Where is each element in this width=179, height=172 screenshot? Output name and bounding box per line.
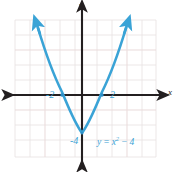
- equation-exponent: 2: [116, 135, 119, 142]
- root-pos2-point: [100, 93, 103, 96]
- equation-equals: =: [103, 137, 109, 147]
- root-neg2-point: [60, 93, 63, 96]
- axes: [8, 6, 163, 166]
- y-axis-label: y: [79, 1, 83, 10]
- tick-label-x-pos-2: 2: [110, 90, 115, 100]
- equation-lhs: y: [97, 137, 101, 147]
- grid-lines: [15, 20, 156, 157]
- equation-minus: −: [121, 137, 127, 147]
- coordinate-plane: [0, 0, 179, 172]
- equation-constant: 4: [130, 137, 135, 147]
- equation-annotation: y=x2−4: [97, 136, 134, 148]
- tick-label-y-neg-4: -4: [70, 136, 78, 146]
- graph-figure: -2 2 -4 x y y=x2−4: [0, 0, 179, 172]
- x-axis-label: x: [168, 88, 172, 97]
- tick-label-x-neg-2: -2: [46, 90, 54, 100]
- grid-accent-lines: [15, 20, 156, 157]
- vertex-point: [81, 132, 84, 135]
